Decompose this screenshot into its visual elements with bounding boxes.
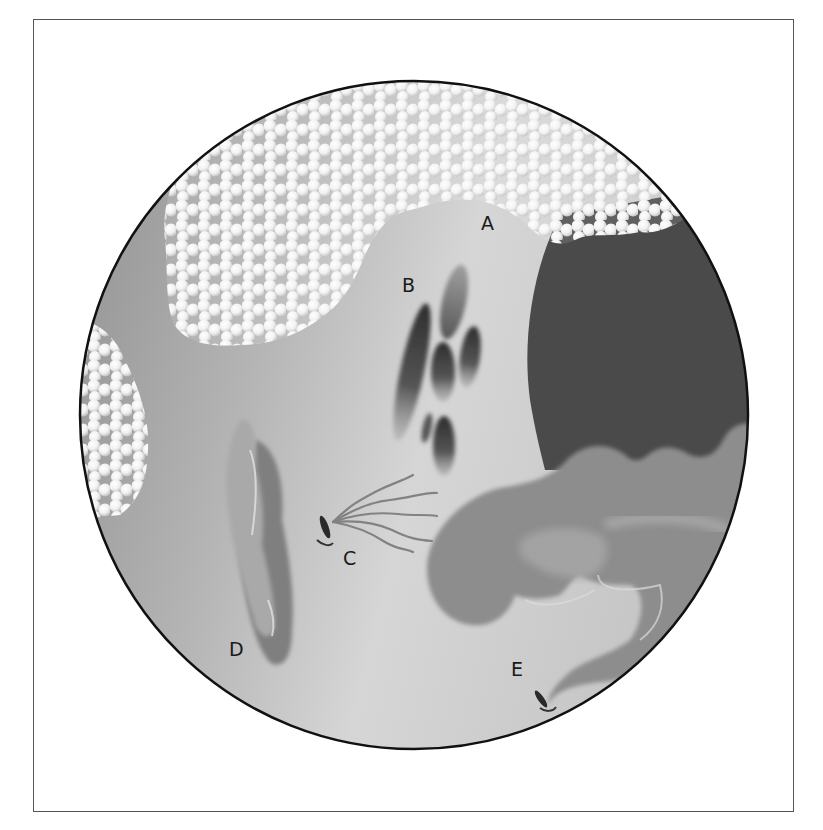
- field-contents: [60, 60, 770, 770]
- label-e: E: [511, 658, 523, 680]
- label-d: D: [229, 638, 244, 660]
- microscope-field-illustration: A B C D E: [0, 0, 823, 830]
- label-a: A: [481, 212, 494, 234]
- label-c: C: [343, 547, 356, 569]
- label-b: B: [402, 274, 415, 296]
